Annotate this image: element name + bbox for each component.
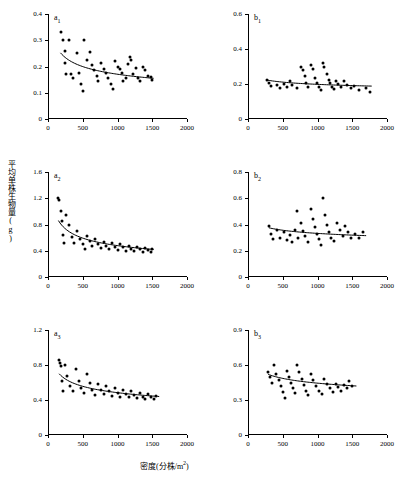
x-tick-label: 0 xyxy=(246,440,250,448)
x-tick xyxy=(283,119,284,122)
fit-curve-b1 xyxy=(248,14,387,119)
x-tick xyxy=(248,277,249,280)
x-tick xyxy=(283,277,284,280)
x-tick xyxy=(352,435,353,438)
fit-curve-b2 xyxy=(248,172,387,277)
x-tick xyxy=(248,119,249,122)
chart-panel-b1: 050010001500200000.20.40.6b1 xyxy=(248,14,387,119)
x-tick-label: 0 xyxy=(46,440,50,448)
figure-panel-grid: 平均单株生物量(g) 密度(分株/m2) 050010001500200000.… xyxy=(0,0,409,484)
x-tick xyxy=(152,435,153,438)
x-tick-label: 1000 xyxy=(311,440,325,448)
x-tick-label: 1500 xyxy=(145,282,159,290)
y-tick-label: 0.8 xyxy=(22,221,42,229)
x-tick xyxy=(318,277,319,280)
x-tick xyxy=(387,277,388,280)
y-tick-label: 0.4 xyxy=(22,10,42,18)
x-tick xyxy=(248,435,249,438)
x-tick xyxy=(152,277,153,280)
x-tick-label: 1500 xyxy=(345,440,359,448)
y-tick-label: 0.4 xyxy=(222,45,242,53)
x-tick-label: 500 xyxy=(278,124,289,132)
y-tick-label: 0.6 xyxy=(222,194,242,202)
x-tick-label: 2000 xyxy=(180,124,194,132)
x-tick-label: 2000 xyxy=(180,282,194,290)
y-tick-label: 0.6 xyxy=(222,361,242,369)
y-tick-label: 0.1 xyxy=(22,89,42,97)
y-axis-label: 平均单株生物量(g) xyxy=(6,160,14,243)
chart-panel-b3: 050010001500200000.30.60.9b3 xyxy=(248,330,387,435)
x-tick-label: 0 xyxy=(46,124,50,132)
y-tick xyxy=(245,435,248,436)
y-tick-label: 1.2 xyxy=(22,326,42,334)
x-axis-label: 密度(分株/m2) xyxy=(140,460,189,471)
y-tick-label: 1.2 xyxy=(22,194,42,202)
x-tick-label: 500 xyxy=(278,440,289,448)
x-tick-label: 1500 xyxy=(345,282,359,290)
x-tick xyxy=(187,277,188,280)
x-tick xyxy=(387,119,388,122)
chart-panel-b2: 050010001500200000.20.40.60.8b2 xyxy=(248,172,387,277)
x-tick xyxy=(48,435,49,438)
x-tick-label: 500 xyxy=(278,282,289,290)
x-tick xyxy=(283,435,284,438)
x-tick xyxy=(152,119,153,122)
chart-panel-a3: 050010001500200000.40.81.2a3 xyxy=(48,330,187,435)
x-tick-label: 0 xyxy=(246,124,250,132)
x-tick-label: 2000 xyxy=(380,124,394,132)
x-tick xyxy=(352,119,353,122)
y-tick-label: 0.3 xyxy=(22,36,42,44)
x-tick xyxy=(83,435,84,438)
y-tick-label: 0.2 xyxy=(222,80,242,88)
y-tick xyxy=(245,119,248,120)
chart-panel-a1: 050010001500200000.10.20.30.4a1 xyxy=(48,14,187,119)
x-tick-label: 0 xyxy=(46,282,50,290)
y-tick-label: 0 xyxy=(222,115,242,123)
x-tick xyxy=(318,435,319,438)
x-tick-label: 0 xyxy=(246,282,250,290)
fit-curve-b3 xyxy=(248,330,387,435)
y-tick-label: 0 xyxy=(22,273,42,281)
y-tick-label: 0 xyxy=(222,273,242,281)
y-tick-label: 0.8 xyxy=(222,168,242,176)
x-tick-label: 2000 xyxy=(380,282,394,290)
y-tick-label: 1.6 xyxy=(22,168,42,176)
x-axis-label-text: 密度(分株/m2) xyxy=(140,462,189,471)
y-tick-label: 0 xyxy=(22,115,42,123)
fit-curve-a2 xyxy=(48,172,187,277)
y-tick xyxy=(45,277,48,278)
y-tick-label: 0.8 xyxy=(22,361,42,369)
y-tick-label: 0.2 xyxy=(22,63,42,71)
x-tick xyxy=(187,435,188,438)
y-tick xyxy=(45,435,48,436)
x-tick xyxy=(118,435,119,438)
y-tick-label: 0.4 xyxy=(22,396,42,404)
fit-curve-a3 xyxy=(48,330,187,435)
y-tick-label: 0.4 xyxy=(222,221,242,229)
x-tick-label: 1000 xyxy=(111,282,125,290)
x-tick xyxy=(48,277,49,280)
fit-curve-a1 xyxy=(48,14,187,119)
x-tick xyxy=(187,119,188,122)
x-tick-label: 1000 xyxy=(111,440,125,448)
x-tick xyxy=(48,119,49,122)
y-tick-label: 0 xyxy=(22,431,42,439)
y-tick-label: 0.6 xyxy=(222,10,242,18)
x-tick xyxy=(118,277,119,280)
x-tick xyxy=(83,119,84,122)
y-tick-label: 0.9 xyxy=(222,326,242,334)
x-tick-label: 1000 xyxy=(111,124,125,132)
x-tick xyxy=(83,277,84,280)
x-tick xyxy=(387,435,388,438)
y-tick xyxy=(45,119,48,120)
x-tick-label: 1000 xyxy=(311,124,325,132)
x-tick xyxy=(352,277,353,280)
x-tick-label: 2000 xyxy=(380,440,394,448)
x-tick-label: 500 xyxy=(78,440,89,448)
x-tick-label: 500 xyxy=(78,124,89,132)
y-tick-label: 0 xyxy=(222,431,242,439)
y-tick xyxy=(245,277,248,278)
y-tick-label: 0.3 xyxy=(222,396,242,404)
chart-panel-a2: 050010001500200000.40.81.21.6a2 xyxy=(48,172,187,277)
y-tick-label: 0.2 xyxy=(222,247,242,255)
